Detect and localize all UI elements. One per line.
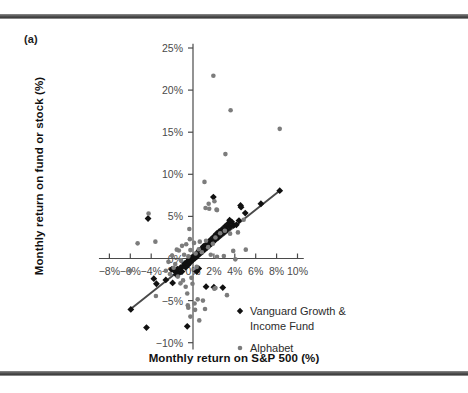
data-point-circle <box>183 284 188 289</box>
data-point-circle <box>166 260 171 265</box>
x-axis-ticks: −8%−6%−4%−2%0%2%4%6%8%10% <box>99 254 308 277</box>
data-point-circle <box>194 265 199 270</box>
data-point-circle <box>211 241 216 246</box>
data-point-circle <box>243 247 248 252</box>
data-point-circle <box>215 208 220 213</box>
data-point-circle <box>188 248 193 253</box>
data-point-circle <box>173 262 178 267</box>
data-point-circle <box>231 249 236 254</box>
y-tick-label: 20% <box>162 84 183 96</box>
y-tick-label: 15% <box>162 126 183 138</box>
data-point-diamond <box>258 200 265 207</box>
legend-label-vanguard-line1: Vanguard Growth & <box>250 305 346 317</box>
y-tick-label: 10% <box>162 168 183 180</box>
data-point-circle <box>203 307 208 312</box>
legend-label-vanguard-line2: Income Fund <box>250 320 314 332</box>
data-point-circle <box>192 241 197 246</box>
data-point-circle <box>168 272 173 277</box>
data-point-circle <box>187 227 192 232</box>
legend: Vanguard Growth &Income FundAlphabet <box>237 305 347 354</box>
x-tick-label: −8% <box>99 265 120 277</box>
data-point-circle <box>213 286 218 291</box>
data-point-circle <box>207 207 212 212</box>
data-point-circle <box>277 127 282 132</box>
data-point-circle <box>189 276 194 281</box>
data-point-circle <box>197 239 202 244</box>
data-point-circle <box>225 293 230 298</box>
data-point-circle <box>218 231 223 236</box>
data-point-diamond <box>169 280 176 287</box>
data-point-circle <box>202 180 207 185</box>
y-tick-label: −10% <box>156 337 183 349</box>
x-tick-label: 4% <box>227 265 242 277</box>
data-point-circle <box>195 297 200 302</box>
data-point-circle <box>197 318 202 323</box>
data-point-circle <box>223 152 228 157</box>
data-point-circle <box>184 242 189 247</box>
data-point-diamond <box>219 284 226 291</box>
data-point-circle <box>228 108 233 113</box>
data-point-diamond <box>184 323 191 330</box>
data-point-circle <box>193 308 198 313</box>
data-point-circle <box>179 258 184 263</box>
y-axis-ticks: −10%−5%0%5%10%15%20%25% <box>156 42 193 349</box>
data-point-circle <box>211 73 216 78</box>
data-point-diamond <box>143 324 150 331</box>
data-point-circle <box>164 268 169 273</box>
data-point-circle <box>175 247 180 252</box>
data-point-circle <box>223 228 228 233</box>
data-point-circle <box>236 230 241 235</box>
x-tick-label: 8% <box>269 265 284 277</box>
data-point-circle <box>206 245 211 250</box>
data-point-circle <box>241 217 246 222</box>
data-point-circle <box>222 254 227 259</box>
data-point-diamond <box>203 283 210 290</box>
data-point-diamond <box>145 215 152 222</box>
x-tick-label: 10% <box>287 265 308 277</box>
data-point-circle <box>176 274 181 279</box>
data-point-circle <box>186 305 191 310</box>
data-point-circle <box>178 281 183 286</box>
data-point-circle <box>215 255 220 260</box>
data-point-circle <box>186 254 191 259</box>
data-point-circle <box>146 211 151 216</box>
legend-marker-diamond <box>237 308 243 314</box>
data-point-circle <box>213 235 218 240</box>
x-tick-label: 2% <box>206 265 221 277</box>
data-point-circle <box>185 291 190 296</box>
data-point-circle <box>212 199 217 204</box>
data-point-circle <box>188 237 193 242</box>
y-tick-label: 5% <box>168 210 183 222</box>
data-point-circle <box>192 301 197 306</box>
data-point-circle <box>206 201 211 206</box>
data-point-circle <box>233 257 238 262</box>
data-point-circle <box>208 252 213 257</box>
y-tick-label: −5% <box>162 295 183 307</box>
scatter-plot: −8%−6%−4%−2%0%2%4%6%8%10%−10%−5%0%5%10%1… <box>0 0 468 393</box>
plot-canvas: −8%−6%−4%−2%0%2%4%6%8%10%−10%−5%0%5%10%1… <box>0 0 468 393</box>
data-point-circle <box>154 294 159 299</box>
legend-label-alphabet: Alphabet <box>250 342 293 354</box>
figure-panel: (a) Monthly return on fund or stock (%) … <box>0 0 468 393</box>
data-point-circle <box>200 250 205 255</box>
legend-marker-circle <box>238 346 243 351</box>
data-point-circle <box>190 281 195 286</box>
data-point-circle <box>135 241 140 246</box>
data-point-circle <box>180 244 185 249</box>
data-point-circle <box>182 252 187 257</box>
data-point-circle <box>228 231 233 236</box>
data-point-circle <box>170 253 175 258</box>
y-tick-label: 25% <box>162 42 183 54</box>
data-point-circle <box>204 239 209 244</box>
data-point-circle <box>188 314 193 319</box>
x-tick-label: 6% <box>248 265 263 277</box>
data-point-circle <box>201 298 206 303</box>
data-point-circle <box>153 239 158 244</box>
data-point-circle <box>128 268 133 273</box>
data-point-circle <box>193 251 198 256</box>
x-tick-label: −4% <box>141 265 162 277</box>
